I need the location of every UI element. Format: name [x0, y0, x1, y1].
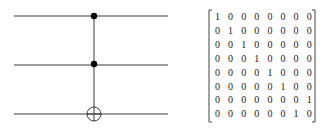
matrix-cell: 0	[267, 94, 272, 105]
matrix-cell: 0	[294, 25, 299, 36]
right-bracket	[312, 10, 315, 122]
matrix-cell: 0	[228, 11, 233, 22]
matrix-cell: 1	[241, 39, 246, 50]
matrix-cell: 1	[215, 11, 220, 22]
matrix-cell: 0	[254, 67, 259, 78]
left-bracket	[209, 10, 212, 122]
circuit	[14, 13, 168, 121]
matrix-cell: 0	[294, 39, 299, 50]
matrix-cell: 0	[281, 67, 286, 78]
matrix-cell: 1	[281, 81, 286, 92]
matrix-cell: 0	[307, 53, 312, 64]
matrix-cell: 0	[267, 39, 272, 50]
matrix-cell: 0	[241, 81, 246, 92]
matrix-cell: 0	[228, 81, 233, 92]
matrix-cell: 0	[294, 67, 299, 78]
matrix-cell: 0	[254, 108, 259, 119]
matrix-cell: 0	[307, 81, 312, 92]
matrix-cell: 0	[307, 11, 312, 22]
matrix-cell: 0	[241, 53, 246, 64]
matrix-cell: 0	[241, 25, 246, 36]
matrix-cell: 1	[307, 94, 312, 105]
matrix-cell: 0	[294, 11, 299, 22]
matrix-cell: 0	[267, 53, 272, 64]
matrix-cell: 0	[215, 67, 220, 78]
matrix-cell: 0	[215, 25, 220, 36]
matrix-cell: 0	[254, 94, 259, 105]
matrix-cell: 0	[281, 94, 286, 105]
matrix-cell: 0	[267, 25, 272, 36]
matrix-cell: 0	[307, 67, 312, 78]
matrix-cell: 0	[267, 81, 272, 92]
matrix-cell: 1	[254, 53, 259, 64]
matrix-cell: 0	[267, 11, 272, 22]
matrix-cell: 0	[294, 94, 299, 105]
matrix-cell: 0	[228, 94, 233, 105]
matrix-cell: 1	[228, 25, 233, 36]
matrix-cell: 0	[307, 25, 312, 36]
matrix-cell: 0	[241, 67, 246, 78]
matrix-cell: 0	[215, 81, 220, 92]
matrix-cell: 0	[228, 67, 233, 78]
matrix-cell: 1	[267, 67, 272, 78]
matrix-cell: 0	[281, 11, 286, 22]
matrix-cell: 0	[228, 53, 233, 64]
matrix-cell: 0	[281, 25, 286, 36]
control-dot-2-icon	[91, 61, 97, 67]
matrix-cell: 0	[294, 81, 299, 92]
matrix-cell: 0	[281, 39, 286, 50]
toffoli-diagram: 1000000001000000001000000001000000001000…	[0, 0, 328, 131]
matrix-cell: 0	[241, 94, 246, 105]
matrix-cell: 0	[254, 39, 259, 50]
matrix-cell: 1	[294, 108, 299, 119]
matrix-cell: 0	[228, 108, 233, 119]
matrix: 1000000001000000001000000001000000001000…	[209, 10, 315, 122]
matrix-cell: 0	[215, 94, 220, 105]
matrix-cell: 0	[267, 108, 272, 119]
matrix-cell: 0	[307, 39, 312, 50]
matrix-cell: 0	[215, 53, 220, 64]
matrix-cell: 0	[215, 39, 220, 50]
matrix-cell: 0	[254, 25, 259, 36]
matrix-cell: 0	[307, 108, 312, 119]
matrix-cell: 0	[254, 11, 259, 22]
matrix-cell: 0	[241, 11, 246, 22]
matrix-cell: 0	[254, 81, 259, 92]
matrix-cell: 0	[241, 108, 246, 119]
matrix-cell: 0	[228, 39, 233, 50]
matrix-cell: 0	[215, 108, 220, 119]
matrix-cell: 0	[281, 53, 286, 64]
matrix-cell: 0	[294, 53, 299, 64]
control-dot-1-icon	[91, 13, 97, 19]
matrix-cell: 0	[281, 108, 286, 119]
